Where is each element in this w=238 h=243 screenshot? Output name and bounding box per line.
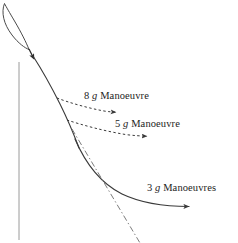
manoeuvre-5g-label: 5 g Manoeuvre [115,119,180,130]
manoeuvre-diagram: 8 g Manoeuvre 5 g Manoeuvre 3 g Manoeuvr… [0,0,238,243]
manoeuvre-3g-curve [75,139,189,207]
main-trajectory-path [29,49,33,57]
manoeuvre-8g-value: 8 [84,90,89,101]
manoeuvre-3g-unit: g [155,182,160,193]
entry-loop-path [3,4,29,50]
manoeuvre-3g-label: 3 g Manoeuvres [147,183,216,194]
manoeuvre-8g-text: Manoeuvre [100,90,149,101]
manoeuvre-5g-text: Manoeuvre [131,118,180,129]
manoeuvre-5g-value: 5 [115,118,120,129]
main-trajectory-descent [33,56,79,148]
manoeuvre-3g-text: Manoeuvres [163,182,216,193]
manoeuvre-5g-unit: g [123,118,128,129]
manoeuvre-3g-value: 3 [147,182,152,193]
manoeuvre-8g-unit: g [92,90,97,101]
ballistic-reference-line [72,129,140,243]
manoeuvre-8g-label: 8 g Manoeuvre [84,91,149,102]
